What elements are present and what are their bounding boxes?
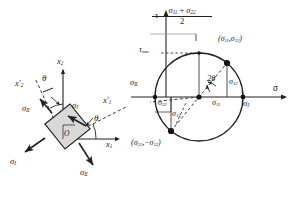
pt-b-open: (σ — [131, 138, 138, 147]
sigma-I-lower-subscript: I — [14, 160, 16, 166]
stress-point-a-label: (σ11,σ12) — [218, 35, 242, 44]
pt-b-close: ) — [158, 138, 161, 147]
angle-2theta-arc2 — [207, 85, 210, 92]
x2-subscript: 2 — [61, 60, 63, 66]
sigma-22-subscript: 22 — [162, 102, 167, 107]
pt-b-mid: ,−σ — [142, 138, 153, 147]
circle-center-fraction: σ11 + σ22 2 — [152, 6, 212, 26]
sigma-I-lower-label: σI — [10, 157, 16, 167]
angle-2theta-label: 2θ — [207, 74, 215, 83]
sigma-12-label: σ12 — [229, 78, 238, 87]
tau-max-subscript: max — [142, 49, 149, 54]
sigma-11-label: σ11 — [212, 99, 220, 108]
center-num-plus: + — [179, 5, 184, 15]
sigma-II-circle-label: σII — [130, 78, 137, 88]
sigma-II-arrow-lower — [79, 143, 93, 165]
sigma-I-upper-label: σI — [72, 101, 78, 111]
pt-a-close: ) — [239, 34, 242, 43]
x1-subscript: 1 — [110, 143, 112, 149]
theta-pointer-right — [86, 118, 93, 126]
origin-label: O — [64, 130, 69, 138]
sigma-I-arrow-lower — [25, 138, 45, 152]
sigma-12-subscript: 12 — [233, 81, 238, 86]
sigma-I-subscript: I — [247, 102, 249, 108]
x2-prime-axis-label: x′2 — [15, 79, 23, 89]
x2-axis-label: x2 — [57, 57, 63, 67]
center-num-sigma-b-sub: 22 — [191, 9, 196, 15]
sigma-22-label: σ22 — [158, 99, 167, 108]
x1-prime-axis-label: x′1 — [103, 96, 111, 106]
sigma-I-upper-subscript: I — [76, 104, 78, 110]
sigma-I-circle-label: σI — [243, 99, 249, 109]
center-den: 2 — [152, 17, 212, 26]
sigma-II-lower-subscript: II — [84, 171, 87, 177]
sigma-II-upper-label: σII — [22, 104, 29, 114]
sigma-axis-label: σ — [273, 84, 278, 94]
theta-arc-left — [50, 104, 63, 108]
sigma-12-lower-label: σ12 — [172, 110, 181, 119]
theta-left-label: θ — [42, 74, 46, 83]
tau-max-label: τmax — [139, 46, 149, 55]
sigma-II-upper-subscript: II — [26, 107, 29, 113]
sigma-II-lower-label: σII — [80, 168, 87, 178]
tau-max-point — [197, 51, 201, 55]
theta-arc-right — [93, 124, 96, 139]
sigma-II-point — [153, 95, 157, 99]
mohr-circle-figure: τ σ σ11 + σ22 2 τmax (σ11,σ12) (σ22,−σ12… — [0, 0, 293, 201]
theta-pointer-left — [51, 97, 60, 105]
x2p-subscript: 2 — [21, 82, 23, 88]
sigma-12-lower-subscript: 12 — [176, 113, 181, 118]
theta-right-label: θ — [94, 114, 98, 123]
pt-a-open: (σ — [218, 34, 225, 43]
figure-vector-layer — [0, 0, 293, 201]
sigma-II-subscript: II — [134, 81, 137, 87]
x1-axis-label: x1 — [106, 140, 112, 150]
stress-point-b-label: (σ22,−σ12) — [131, 139, 161, 148]
x1p-subscript: 1 — [109, 99, 111, 105]
stress-element-block — [45, 104, 90, 149]
sigma-11-subscript: 11 — [216, 102, 220, 107]
x2-prime-tick — [43, 88, 53, 92]
